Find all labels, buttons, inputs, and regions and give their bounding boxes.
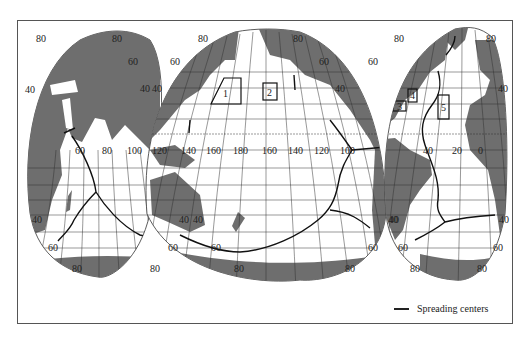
svg-text:40: 40 <box>32 214 42 225</box>
svg-text:140: 140 <box>181 145 196 156</box>
svg-text:80: 80 <box>234 263 244 274</box>
svg-text:60: 60 <box>368 242 378 253</box>
svg-text:40: 40 <box>498 83 508 94</box>
svg-text:120: 120 <box>314 145 329 156</box>
study-area-1-label: 1 <box>223 88 228 99</box>
legend-label: Spreading centers <box>417 303 488 314</box>
svg-text:60: 60 <box>493 242 503 253</box>
svg-text:40: 40 <box>179 214 189 225</box>
svg-text:180: 180 <box>233 145 248 156</box>
svg-text:80: 80 <box>477 263 487 274</box>
svg-text:40: 40 <box>499 214 509 225</box>
landmass-antarctica <box>40 256 160 300</box>
svg-text:80: 80 <box>36 33 46 44</box>
study-area-4-label: 4 <box>410 90 415 101</box>
world-map: 1 2 <box>0 0 532 339</box>
svg-text:40: 40 <box>193 214 203 225</box>
study-area-3-label: 3 <box>397 101 402 112</box>
svg-text:60: 60 <box>48 242 58 253</box>
svg-text:40: 40 <box>389 214 399 225</box>
svg-text:60: 60 <box>398 242 408 253</box>
svg-text:80: 80 <box>486 33 496 44</box>
svg-text:80: 80 <box>410 263 420 274</box>
study-area-2-label: 2 <box>267 87 272 98</box>
svg-text:0: 0 <box>478 145 483 156</box>
spreading-center-line-icon <box>394 308 409 310</box>
svg-text:80: 80 <box>198 33 208 44</box>
svg-text:160: 160 <box>206 145 221 156</box>
svg-text:160: 160 <box>262 145 277 156</box>
svg-text:80: 80 <box>293 33 303 44</box>
svg-text:140: 140 <box>288 145 303 156</box>
svg-text:120: 120 <box>152 145 167 156</box>
svg-text:40: 40 <box>25 84 35 95</box>
svg-text:80: 80 <box>345 263 355 274</box>
svg-text:60: 60 <box>211 242 221 253</box>
lobe-atlantic: 3 4 5 <box>375 20 520 300</box>
svg-text:40: 40 <box>140 83 150 94</box>
svg-text:40: 40 <box>335 83 345 94</box>
svg-text:80: 80 <box>394 33 404 44</box>
map-legend: Spreading centers <box>394 303 488 314</box>
svg-text:60: 60 <box>128 56 138 67</box>
svg-text:80: 80 <box>112 33 122 44</box>
svg-text:100: 100 <box>340 145 355 156</box>
svg-text:20: 20 <box>452 145 462 156</box>
svg-text:60: 60 <box>170 56 180 67</box>
svg-text:80: 80 <box>102 145 112 156</box>
svg-text:60: 60 <box>168 242 178 253</box>
svg-text:40: 40 <box>152 83 162 94</box>
svg-text:60: 60 <box>75 145 85 156</box>
svg-text:60: 60 <box>368 56 378 67</box>
study-area-5-label: 5 <box>441 102 446 113</box>
svg-text:40: 40 <box>423 145 433 156</box>
svg-text:60: 60 <box>319 56 329 67</box>
svg-text:100: 100 <box>127 145 142 156</box>
svg-text:80: 80 <box>72 263 82 274</box>
landmass-antarctica-atlantic <box>420 254 490 300</box>
svg-text:80: 80 <box>150 263 160 274</box>
